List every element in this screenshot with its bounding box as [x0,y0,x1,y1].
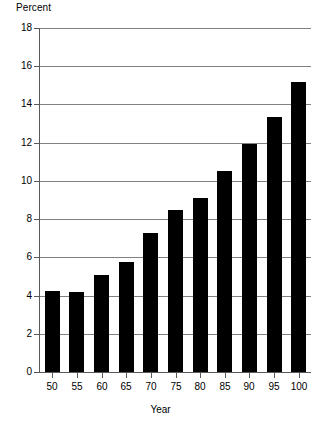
y-axis-tick-label: 8 [2,214,32,224]
y-axis-tick-label: 2 [2,329,32,339]
x-axis-tick-label: 80 [194,381,205,393]
x-axis-tick-label: 90 [243,381,254,393]
y-axis-tick-label: 18 [2,23,32,33]
x-axis-tick [151,373,152,378]
x-axis-tick-label: 75 [170,381,181,393]
x-axis-tick [77,373,78,378]
x-axis-tick [299,373,300,378]
bar [119,262,134,372]
bar [94,275,109,372]
bar [291,82,306,372]
x-axis-tick-labels: 50556065707580859095100 [0,381,321,395]
plot-area [40,28,311,372]
y-axis-tick-label: 6 [2,252,32,262]
bar-chart: Percent 024681012141618 5055606570758085… [0,0,321,426]
x-axis-line [39,372,311,373]
x-axis-tick-label: 60 [96,381,107,393]
x-axis-tick-label: 50 [46,381,57,393]
bar [168,210,183,372]
x-axis-tick-label: 65 [120,381,131,393]
bar [193,198,208,372]
x-axis-tick [126,373,127,378]
x-axis-tick [176,373,177,378]
x-axis-tick [52,373,53,378]
y-axis-tick-label: 14 [2,99,32,109]
y-axis-tick-label: 12 [2,138,32,148]
x-axis-tick [200,373,201,378]
x-axis-tick-label: 95 [268,381,279,393]
x-axis-tick [102,373,103,378]
y-axis-tick-labels: 024681012141618 [0,0,32,426]
x-axis-tick [249,373,250,378]
y-axis-tick-label: 10 [2,176,32,186]
bar [217,171,232,372]
x-axis-tick [225,373,226,378]
y-axis-tick-label: 0 [2,367,32,377]
bar [267,117,282,372]
x-axis-title: Year [0,404,321,416]
x-axis-tick-label: 85 [219,381,230,393]
y-axis-tick-label: 16 [2,61,32,71]
bar [242,144,257,372]
bar [45,291,60,372]
x-axis-tick-label: 70 [145,381,156,393]
x-axis-tick [274,373,275,378]
bar [69,292,84,372]
x-axis-tick-label: 55 [71,381,82,393]
y-axis-tick-label: 4 [2,291,32,301]
bar [143,233,158,372]
x-axis-tick-label: 100 [291,381,308,393]
y-axis-tick [34,372,40,373]
